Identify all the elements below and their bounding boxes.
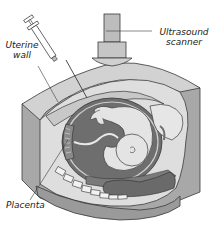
fetus-head [116,134,148,166]
uterine-wall-label: Uterine wall [4,40,40,60]
placenta-label: Placenta [6,200,45,210]
ultrasound-scanner-label: Ultrasound scanner [152,27,216,47]
ultrasound-label-line2: scanner [152,37,216,47]
uterine-wall-label-line1: Uterine [4,40,40,50]
ultrasound-label-line1: Ultrasound [152,27,216,37]
ultrasound-scanner [92,14,132,66]
uterine-wall-label-line2: wall [4,50,40,60]
